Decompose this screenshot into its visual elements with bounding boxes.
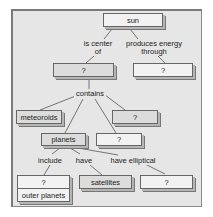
node-meteoroids: meteoroids [16, 110, 62, 124]
node-unknown-energy: ? [133, 63, 193, 77]
node-unknown-elliptical: ? [140, 175, 193, 189]
node-include-group: ? outer planets [17, 175, 70, 202]
node-unknown-include: ? [18, 176, 69, 188]
link-produces-energy-through: produces energy through [123, 40, 185, 56]
node-unknown-center: ? [53, 63, 114, 77]
node-outer-planets: outer planets [18, 188, 69, 201]
node-unknown-contains-right: ? [112, 110, 158, 124]
node-unknown-contains-mid: ? [96, 133, 142, 146]
link-have-elliptical: have elliptical [107, 157, 159, 165]
node-satellites: satellites [79, 175, 132, 189]
link-have: have [74, 157, 94, 165]
link-contains: contains [74, 90, 106, 98]
link-include: include [36, 157, 64, 165]
node-planets: planets [41, 133, 86, 146]
link-is-center-of: is center of [82, 40, 114, 56]
node-label: sun [127, 16, 139, 25]
node-sun: sun [103, 13, 163, 27]
